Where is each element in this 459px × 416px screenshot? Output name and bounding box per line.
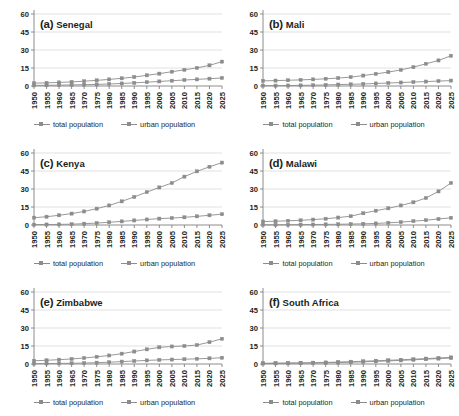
svg-text:1950: 1950 (30, 370, 39, 387)
svg-text:1955: 1955 (272, 230, 281, 248)
svg-text:2025: 2025 (447, 91, 456, 109)
panel-letter: (c) (40, 157, 53, 169)
svg-text:1985: 1985 (118, 369, 127, 387)
legend-item-total[interactable]: total population (263, 398, 332, 407)
svg-text:60: 60 (250, 288, 258, 297)
svg-text:15: 15 (21, 342, 30, 351)
svg-text:1975: 1975 (93, 369, 102, 387)
svg-text:0: 0 (25, 360, 29, 369)
legend-marker-icon (263, 402, 279, 403)
svg-text:2000: 2000 (384, 370, 393, 387)
svg-text:2020: 2020 (434, 231, 443, 248)
chart-panel: 0153045601950195519601965197019751980198… (229, 278, 459, 416)
legend-item-total[interactable]: total population (263, 259, 332, 268)
svg-text:45: 45 (250, 306, 259, 315)
chart-legend: total populationurban population (229, 259, 459, 268)
svg-text:2015: 2015 (422, 91, 431, 109)
svg-text:1985: 1985 (118, 91, 127, 109)
legend-item-urban[interactable]: urban population (121, 120, 195, 129)
svg-text:1970: 1970 (80, 370, 89, 387)
svg-text:2020: 2020 (205, 231, 214, 248)
svg-text:30: 30 (21, 324, 29, 333)
svg-text:2000: 2000 (155, 370, 164, 387)
legend-item-total[interactable]: total population (34, 398, 103, 407)
svg-text:15: 15 (250, 203, 259, 212)
panel-title: (d)Malawi (269, 153, 317, 171)
svg-text:30: 30 (250, 185, 258, 194)
svg-text:2005: 2005 (168, 230, 177, 248)
legend-marker-icon (351, 124, 367, 125)
panel-title: (a)Senegal (40, 14, 93, 32)
svg-text:1990: 1990 (130, 370, 139, 387)
svg-text:1980: 1980 (334, 370, 343, 387)
chart-panel: 0153045601950195519601965197019751980198… (229, 0, 459, 139)
legend-marker-icon (351, 263, 367, 264)
svg-text:2015: 2015 (193, 91, 202, 109)
legend-label: total population (282, 398, 332, 407)
chart-panel: 0153045601950195519601965197019751980198… (229, 139, 459, 278)
svg-text:2025: 2025 (447, 230, 456, 248)
svg-text:1980: 1980 (105, 370, 114, 387)
legend-item-total[interactable]: total population (34, 259, 103, 268)
legend-item-urban[interactable]: urban population (351, 259, 425, 268)
svg-text:2010: 2010 (180, 231, 189, 248)
legend-marker-icon (121, 263, 137, 264)
legend-item-urban[interactable]: urban population (121, 259, 195, 268)
panel-country-name: South Africa (283, 297, 339, 308)
svg-text:15: 15 (21, 203, 30, 212)
svg-text:1950: 1950 (259, 92, 268, 109)
svg-text:2000: 2000 (155, 231, 164, 248)
legend-item-total[interactable]: total population (263, 120, 332, 129)
svg-text:2015: 2015 (422, 369, 431, 387)
svg-text:1960: 1960 (55, 92, 64, 109)
svg-text:0: 0 (25, 82, 29, 91)
panel-title: (f)South Africa (269, 292, 339, 310)
legend-marker-icon (263, 263, 279, 264)
legend-label: urban population (370, 120, 425, 129)
panel-letter: (e) (40, 296, 53, 308)
svg-text:1955: 1955 (43, 91, 52, 109)
svg-text:45: 45 (250, 28, 259, 37)
svg-text:1995: 1995 (143, 91, 152, 109)
svg-text:2010: 2010 (409, 370, 418, 387)
panel-country-name: Zimbabwe (56, 297, 102, 308)
svg-text:2010: 2010 (180, 370, 189, 387)
legend-marker-icon (121, 402, 137, 403)
legend-marker-icon (34, 402, 50, 403)
legend-label: urban population (370, 398, 425, 407)
chart-panel: 0153045601950195519601965197019751980198… (0, 139, 229, 278)
legend-label: urban population (370, 259, 425, 268)
legend-item-total[interactable]: total population (34, 120, 103, 129)
svg-text:0: 0 (254, 221, 258, 230)
svg-text:1995: 1995 (372, 369, 381, 387)
legend-item-urban[interactable]: urban population (351, 120, 425, 129)
legend-marker-icon (263, 124, 279, 125)
svg-text:1970: 1970 (309, 370, 318, 387)
chart-legend: total populationurban population (0, 398, 229, 407)
legend-item-urban[interactable]: urban population (121, 398, 195, 407)
svg-text:1995: 1995 (143, 369, 152, 387)
svg-text:1985: 1985 (118, 230, 127, 248)
svg-text:1955: 1955 (43, 369, 52, 387)
plot-area: 0153045601950195519601965197019751980198… (0, 278, 229, 416)
svg-text:2015: 2015 (422, 230, 431, 248)
svg-text:1960: 1960 (55, 370, 64, 387)
panel-letter: (d) (269, 157, 283, 169)
svg-text:1970: 1970 (80, 231, 89, 248)
svg-text:30: 30 (250, 46, 258, 55)
svg-text:60: 60 (21, 149, 29, 158)
legend-label: total population (53, 259, 103, 268)
svg-text:2025: 2025 (447, 369, 456, 387)
svg-text:2025: 2025 (218, 369, 227, 387)
svg-text:1995: 1995 (372, 91, 381, 109)
svg-text:1970: 1970 (309, 231, 318, 248)
legend-item-urban[interactable]: urban population (351, 398, 425, 407)
plot-area: 0153045601950195519601965197019751980198… (229, 139, 459, 278)
svg-text:1965: 1965 (68, 369, 77, 387)
svg-text:1975: 1975 (322, 91, 331, 109)
chart-legend: total populationurban population (0, 259, 229, 268)
panel-country-name: Malawi (286, 158, 317, 169)
legend-label: total population (53, 398, 103, 407)
panel-letter: (a) (40, 18, 53, 30)
svg-text:1955: 1955 (272, 369, 281, 387)
